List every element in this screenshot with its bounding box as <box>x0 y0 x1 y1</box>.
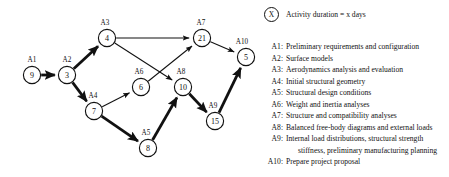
edge-n4-to-n10 <box>115 43 173 80</box>
activity-label-a6: A6 <box>135 68 144 76</box>
legend-item-description: Prepare project proposal <box>286 156 449 168</box>
legend-item-description: Balanced free-body diagrams and external… <box>286 122 449 134</box>
node-a6[interactable]: A66 <box>132 68 149 96</box>
legend-item-description: Structural design conditions <box>286 87 449 99</box>
node-a1[interactable]: A19 <box>23 56 40 84</box>
legend-item-description: Aerodynamics analysis and evaluation <box>286 64 449 76</box>
node-duration-a7: 21 <box>198 34 206 43</box>
node-duration-a1: 9 <box>30 71 34 80</box>
legend-activity-list: A1:Preliminary requirements and configur… <box>264 41 449 168</box>
nodes-layer: A19A23A34A721A105A66A810A47A58A915 <box>23 19 254 157</box>
legend-item-description: Preliminary requirements and configurati… <box>286 41 449 53</box>
node-a10[interactable]: A105 <box>236 38 255 66</box>
duration-key-symbol: X <box>269 11 274 19</box>
legend-item: A1:Preliminary requirements and configur… <box>264 41 449 53</box>
node-duration-a8: 10 <box>179 83 187 92</box>
edge-n21-to-n5 <box>210 42 234 52</box>
legend-item-code: A10: <box>264 156 286 168</box>
node-duration-a5: 8 <box>146 144 150 153</box>
legend-item-description: Weight and inertia analyses <box>286 99 449 111</box>
activity-label-a9: A9 <box>209 102 218 110</box>
legend-item-code: A3: <box>264 64 286 76</box>
activity-label-a4: A4 <box>89 92 98 100</box>
edge-n3-to-n4 <box>74 46 98 68</box>
legend-item: A9:Internal load distributions, structur… <box>264 133 449 156</box>
legend-item-code: A2: <box>264 53 286 65</box>
duration-key-text: Activity duration = x days <box>286 10 366 19</box>
legend-item-code: A7: <box>264 110 286 122</box>
node-duration-a10: 5 <box>244 53 248 62</box>
activity-network-diagram: A19A23A34A721A105A66A810A47A58A915 <box>0 0 260 177</box>
legend-item: A7:Structure and compatibility analyses <box>264 110 449 122</box>
node-a8[interactable]: A810 <box>174 68 191 96</box>
node-a3[interactable]: A34 <box>98 19 115 47</box>
activity-label-a8: A8 <box>177 68 186 76</box>
legend-item-description: Structure and compatibility analyses <box>286 110 449 122</box>
duration-key-circle: X <box>264 7 279 22</box>
node-a2[interactable]: A23 <box>58 56 75 84</box>
edge-n8-to-n10 <box>153 98 177 140</box>
node-a5[interactable]: A58 <box>139 129 156 157</box>
legend-item-description: Surface models <box>286 53 449 65</box>
legend-item-code: A9: <box>264 133 286 145</box>
legend-item: A5:Structural design conditions <box>264 87 449 99</box>
node-duration-a2: 3 <box>65 71 69 80</box>
legend-item-code: A8: <box>264 122 286 134</box>
activity-network-figure: A19A23A34A721A105A66A810A47A58A915 X Act… <box>0 0 449 177</box>
legend-item: A2:Surface models <box>264 53 449 65</box>
activity-label-a3: A3 <box>101 19 110 27</box>
activity-label-a5: A5 <box>142 129 151 137</box>
legend-item-description: Internal load distributions, structural … <box>286 133 449 156</box>
legend-item-description-continued: stiffness, preliminary manufacturing pla… <box>286 145 449 157</box>
node-a4[interactable]: A47 <box>85 92 102 120</box>
edge-n3-to-n7 <box>73 82 87 101</box>
legend-item: A4:Initial structural geometry <box>264 76 449 88</box>
node-duration-a9: 15 <box>211 117 219 126</box>
node-duration-a3: 4 <box>105 34 109 43</box>
activity-label-a7: A7 <box>197 19 206 27</box>
edge-n15-to-n5 <box>219 68 241 113</box>
activity-label-a2: A2 <box>63 56 72 64</box>
edge-n6-to-n21 <box>148 46 192 81</box>
node-duration-a4: 7 <box>92 107 96 116</box>
legend-item: A10:Prepare project proposal <box>264 156 449 168</box>
activity-label-a1: A1 <box>28 56 37 64</box>
edge-n7-to-n6 <box>102 93 129 107</box>
legend-item-description: Initial structural geometry <box>286 76 449 88</box>
edge-n7-to-n8 <box>102 116 138 141</box>
legend-item-code: A6: <box>264 99 286 111</box>
legend-item-code: A4: <box>264 76 286 88</box>
legend-item-code: A5: <box>264 87 286 99</box>
node-duration-a6: 6 <box>139 83 143 92</box>
node-a7[interactable]: A721 <box>193 19 210 47</box>
legend-key: X Activity duration = x days <box>264 7 366 22</box>
legend-item-code: A1: <box>264 41 286 53</box>
activity-label-a10: A10 <box>236 38 249 46</box>
legend-item: A8:Balanced free-body diagrams and exter… <box>264 122 449 134</box>
edge-n10-to-n15 <box>189 94 206 112</box>
legend-item: A6:Weight and inertia analyses <box>264 99 449 111</box>
legend-item: A3:Aerodynamics analysis and evaluation <box>264 64 449 76</box>
legend: X Activity duration = x days A1:Prelimin… <box>262 0 449 177</box>
